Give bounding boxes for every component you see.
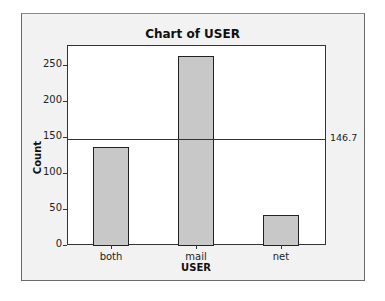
- mean-reference-line: [67, 139, 326, 140]
- bar-mail: [178, 56, 214, 246]
- x-axis-title: USER: [166, 262, 226, 273]
- y-tick-label: 0: [28, 238, 62, 249]
- y-tick: [63, 65, 67, 66]
- y-tick-label: 50: [28, 202, 62, 213]
- y-tick-label: 250: [28, 58, 62, 69]
- y-tick-label: 200: [28, 94, 62, 105]
- x-tick-label: net: [251, 251, 311, 262]
- bar-both: [93, 147, 129, 246]
- x-tick: [196, 245, 197, 249]
- chart-title: Chart of USER: [0, 27, 385, 41]
- x-tick: [111, 245, 112, 249]
- y-axis-title: Count: [32, 133, 43, 183]
- y-tick: [63, 173, 67, 174]
- x-tick: [281, 245, 282, 249]
- y-tick: [63, 209, 67, 210]
- mean-reference-label: 146.7: [330, 132, 357, 143]
- bar-net: [263, 215, 299, 246]
- x-tick-label: both: [81, 251, 141, 262]
- y-tick: [63, 101, 67, 102]
- x-tick-label: mail: [166, 251, 226, 262]
- y-tick: [63, 245, 67, 246]
- y-tick: [63, 137, 67, 138]
